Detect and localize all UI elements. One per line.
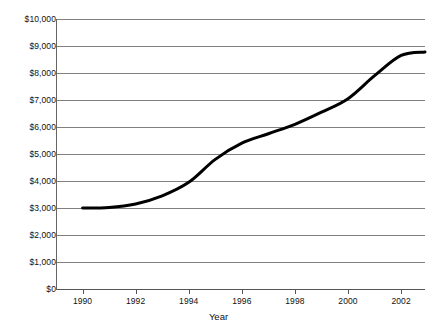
- x-axis-tick-label: 1994: [167, 296, 211, 306]
- x-axis-tick-label: 2000: [326, 296, 370, 306]
- y-axis-tick-label: $8,000: [0, 69, 56, 78]
- x-axis-tick-mark: [189, 290, 190, 294]
- gridline: [56, 73, 425, 74]
- x-axis-tick-mark: [295, 290, 296, 294]
- gridline: [56, 181, 425, 182]
- y-axis-tick-label: $7,000: [0, 96, 56, 105]
- y-axis-tick-label: $6,000: [0, 123, 56, 132]
- x-axis-tick-label: 1992: [114, 296, 158, 306]
- y-axis-tick-label: $2,000: [0, 231, 56, 240]
- x-axis-tick-label: 1998: [273, 296, 317, 306]
- y-axis-line: [56, 19, 57, 290]
- gridline: [56, 46, 425, 47]
- gridline: [56, 289, 425, 290]
- gridline: [56, 154, 425, 155]
- gridline: [56, 208, 425, 209]
- x-axis-tick-label: 2002: [379, 296, 423, 306]
- x-axis-tick-mark: [83, 290, 84, 294]
- y-axis-tick-label: $10,000: [0, 15, 56, 24]
- x-axis-tick-label: 1996: [220, 296, 264, 306]
- plot-area: [56, 19, 425, 289]
- y-axis-tick-label: $0: [0, 285, 56, 294]
- line-chart: $0$1,000$2,000$3,000$4,000$5,000$6,000$7…: [0, 0, 437, 333]
- gridline: [56, 262, 425, 263]
- x-axis-title: Year: [0, 311, 437, 322]
- x-axis-tick-mark: [348, 290, 349, 294]
- gridline: [56, 235, 425, 236]
- x-axis-tick-mark: [401, 290, 402, 294]
- y-axis-tick-label: $1,000: [0, 258, 56, 267]
- y-axis-tick-label: $4,000: [0, 177, 56, 186]
- gridline: [56, 19, 425, 20]
- x-axis-tick-mark: [136, 290, 137, 294]
- gridline: [56, 127, 425, 128]
- x-axis-tick-mark: [242, 290, 243, 294]
- y-axis-tick-label: $9,000: [0, 42, 56, 51]
- y-axis-tick-label: $3,000: [0, 204, 56, 213]
- gridline: [56, 100, 425, 101]
- x-axis-tick-label: 1990: [61, 296, 105, 306]
- y-axis-tick-label: $5,000: [0, 150, 56, 159]
